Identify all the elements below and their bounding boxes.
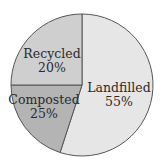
slice-value-composted: 25% [30,106,58,121]
slice-label-landfilled: Landfilled [87,80,151,95]
slice-value-recycled: 20% [38,60,66,75]
pie-chart: Landfilled 55% Composted 25% Recycled 20… [0,0,162,164]
slice-label-composted: Composted [8,92,79,107]
slice-label-recycled: Recycled [23,46,80,61]
slice-value-landfilled: 55% [105,94,133,109]
